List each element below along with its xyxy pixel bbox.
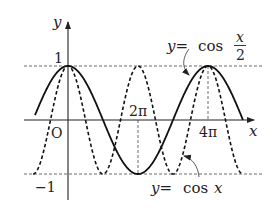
annotation-cos-x-over-2: y= cos x 2: [166, 29, 246, 75]
x-tick-4pi: 4π: [199, 124, 217, 140]
x-tick-2pi: 2π: [129, 103, 147, 119]
y-tick-neg1: −1: [35, 179, 56, 195]
x-axis-label: x: [249, 122, 258, 140]
annotation-cos-x: y= cos x: [150, 156, 223, 197]
annot1-num: x: [236, 29, 244, 45]
annot2-arg: x: [214, 179, 223, 197]
cosine-graph: y x O 1 −1 2π 4π y= cos x 2 y= cos x: [0, 0, 278, 214]
annot1-fn: cos: [198, 37, 223, 55]
y-tick-1: 1: [54, 50, 63, 66]
annot1-den: 2: [236, 47, 245, 63]
annot2-fn: cos: [183, 179, 208, 197]
y-axis-label: y: [52, 13, 62, 31]
origin-label: O: [51, 125, 62, 141]
annot2-lhs: y=: [150, 179, 172, 197]
annot1-lhs: y=: [166, 37, 188, 55]
